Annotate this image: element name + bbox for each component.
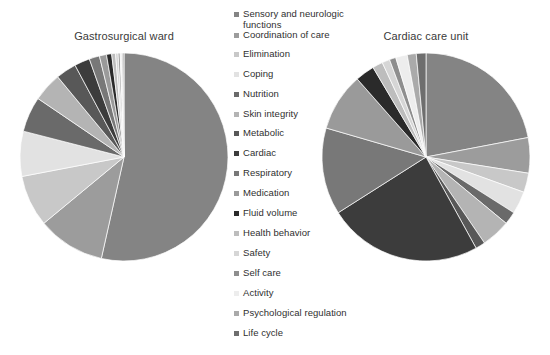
- legend-swatch-icon: [234, 131, 239, 136]
- legend-swatch-icon: [234, 211, 239, 216]
- legend-item-label: Cardiac: [243, 147, 276, 158]
- legend-item[interactable]: Sensory and neurologic functions: [234, 8, 360, 30]
- pie-left-svg: [19, 52, 229, 262]
- legend-swatch-icon: [234, 52, 239, 57]
- legend-item-label: Metabolic: [243, 127, 284, 138]
- legend-swatch-icon: [234, 251, 239, 256]
- legend-item-label: Fluid volume: [243, 207, 297, 218]
- legend-swatch-icon: [234, 33, 239, 38]
- legend-item-label: Self care: [243, 267, 281, 278]
- pie-chart-left: [19, 52, 229, 262]
- legend-swatch-icon: [234, 12, 239, 17]
- legend-swatch-icon: [234, 311, 239, 316]
- legend-swatch-icon: [234, 72, 239, 77]
- legend-item-label: Coping: [243, 68, 273, 79]
- legend-swatch-icon: [234, 231, 239, 236]
- legend-swatch-icon: [234, 92, 239, 97]
- legend-item-label: Elimination: [243, 48, 290, 59]
- pie-chart-figure: Gastrosurgical ward Sensory and neurolog…: [0, 0, 550, 355]
- legend-item-label: Activity: [243, 287, 274, 298]
- pie-right-svg: [321, 52, 531, 262]
- legend-swatch-icon: [234, 291, 239, 296]
- chart-title-right: Cardiac care unit: [310, 30, 542, 43]
- legend-item-label: Life cycle: [243, 327, 283, 338]
- pie-chart-right: [321, 52, 531, 262]
- chart-panel-gastrosurgical-ward: Gastrosurgical ward: [8, 30, 240, 320]
- chart-panel-cardiac-care-unit: Cardiac care unit: [310, 30, 542, 320]
- legend-item-label: Sensory and neurologic functions: [243, 8, 344, 30]
- legend-item-label: Respiratory: [243, 167, 292, 178]
- legend-item-label: Health behavior: [243, 227, 310, 238]
- legend-item-label: Skin integrity: [243, 108, 298, 119]
- legend-swatch-icon: [234, 151, 239, 156]
- chart-title-left: Gastrosurgical ward: [8, 30, 240, 43]
- legend-item-label: Medication: [243, 187, 289, 198]
- legend-swatch-icon: [234, 191, 239, 196]
- legend-item[interactable]: Life cycle: [234, 327, 360, 338]
- legend-item-label: Nutrition: [243, 88, 279, 99]
- legend-swatch-icon: [234, 331, 239, 336]
- legend-swatch-icon: [234, 171, 239, 176]
- legend-swatch-icon: [234, 271, 239, 276]
- legend-item-label: Safety: [243, 247, 270, 258]
- legend-swatch-icon: [234, 112, 239, 117]
